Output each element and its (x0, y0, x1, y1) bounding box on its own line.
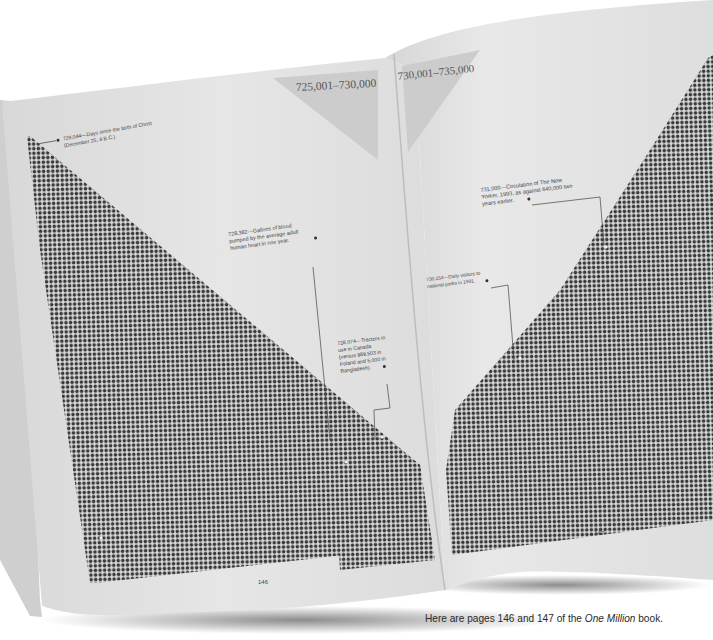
caption-suffix: book. (635, 612, 663, 624)
caption-prefix: Here are pages 146 and 147 of the (425, 612, 585, 624)
highlight-dot (380, 435, 383, 438)
open-book-photo: 725,001–730,000 730,001–735,000 729,044—… (0, 0, 713, 640)
highlight-dot (99, 536, 102, 539)
right-page-number: 147 (594, 530, 605, 536)
caption-book-title: One Million (585, 612, 636, 624)
photo-caption: Here are pages 146 and 147 of the One Mi… (425, 612, 663, 624)
left-page-number: 146 (258, 579, 269, 585)
highlight-dot (604, 245, 607, 248)
highlight-dot (344, 460, 347, 463)
highlight-dot (518, 356, 521, 359)
